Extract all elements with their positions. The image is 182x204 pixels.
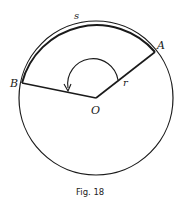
radius-ob (22, 83, 96, 98)
label-o: O (91, 104, 100, 117)
radius-oa (96, 52, 155, 98)
label-r: r (123, 77, 129, 88)
circle-diagram: s A B O r Fig. 18 (0, 0, 182, 204)
angle-arc (68, 59, 118, 88)
figure-caption: Fig. 18 (76, 187, 104, 197)
label-b: B (9, 77, 18, 90)
arc-s (22, 25, 155, 83)
label-s: s (74, 10, 79, 21)
label-a: A (156, 39, 165, 52)
